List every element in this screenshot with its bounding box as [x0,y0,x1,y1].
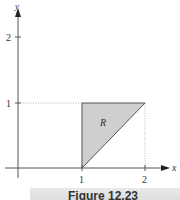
figure-diagram: y x 1 2 1 2 R [0,0,180,200]
y-tick-label-1: 1 [6,98,11,109]
x-axis-arrow-icon [161,165,170,171]
region-label: R [99,117,106,128]
region-r [82,103,145,168]
y-tick-label-2: 2 [6,32,11,43]
figure-caption: Figure 12.23 [0,189,180,200]
x-tick-label-1: 1 [79,174,84,185]
x-axis-label: x [171,162,177,173]
y-axis-label: y [14,1,19,11]
x-tick-label-2: 2 [142,174,147,185]
